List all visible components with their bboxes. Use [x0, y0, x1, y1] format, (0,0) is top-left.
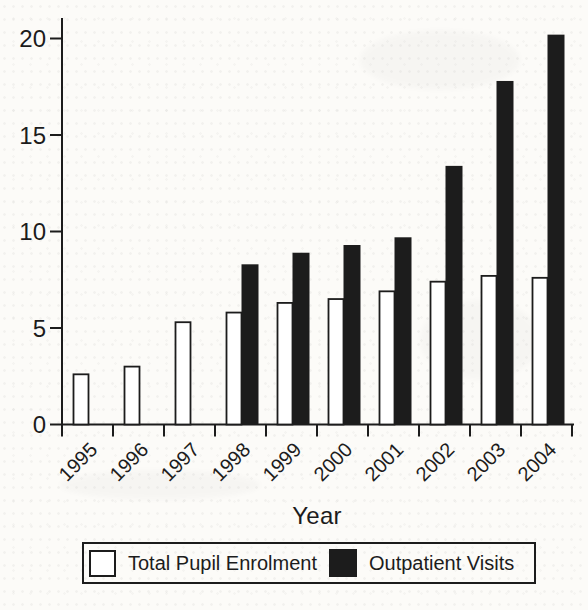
legend-label-total-pupil-enrolment: Total Pupil Enrolment	[128, 552, 317, 575]
bar-outpatient-visits-1998	[242, 264, 259, 424]
x-tick-label: 2003	[462, 438, 509, 485]
bar-total-pupil-enrolment-2004	[533, 278, 548, 425]
y-tick-label: 5	[33, 315, 46, 342]
bar-total-pupil-enrolment-1996	[125, 367, 140, 425]
bar-outpatient-visits-2004	[548, 35, 565, 425]
bar-outpatient-visits-2003	[497, 81, 514, 425]
x-tick-label: 1997	[156, 438, 203, 485]
bar-total-pupil-enrolment-1999	[278, 303, 293, 425]
bar-total-pupil-enrolment-2002	[431, 282, 446, 425]
bar-total-pupil-enrolment-2000	[329, 299, 344, 424]
x-tick-label: 2000	[309, 438, 356, 485]
bar-total-pupil-enrolment-1998	[227, 313, 242, 425]
x-tick-label: 1996	[105, 438, 152, 485]
x-tick-label: 1999	[258, 438, 305, 485]
bar-total-pupil-enrolment-1995	[74, 374, 89, 424]
chart-plot-area: 0510152019951996199719981999200020012002…	[0, 0, 588, 538]
bar-total-pupil-enrolment-1997	[176, 322, 191, 424]
legend-swatch-total-pupil-enrolment	[89, 550, 116, 577]
bar-outpatient-visits-2001	[395, 237, 412, 424]
bar-outpatient-visits-1999	[293, 253, 310, 425]
x-tick-label: 2002	[411, 438, 458, 485]
x-tick-label: 2001	[360, 438, 407, 485]
x-axis-title: Year	[62, 502, 572, 530]
y-tick-label: 10	[19, 218, 46, 245]
x-tick-label: 1998	[207, 438, 254, 485]
y-tick-label: 0	[33, 411, 46, 438]
scanned-bar-chart-figure: 0510152019951996199719981999200020012002…	[0, 0, 588, 610]
bar-outpatient-visits-2002	[446, 166, 463, 425]
legend-label-outpatient-visits: Outpatient Visits	[369, 552, 514, 575]
bar-outpatient-visits-2000	[344, 245, 361, 424]
y-tick-label: 20	[19, 25, 46, 52]
x-tick-label: 2004	[513, 438, 560, 485]
bar-total-pupil-enrolment-2003	[482, 276, 497, 425]
legend-swatch-outpatient-visits	[329, 549, 357, 577]
y-tick-label: 15	[19, 122, 46, 149]
x-tick-label: 1995	[54, 438, 101, 485]
chart-legend: Total Pupil Enrolment Outpatient Visits	[82, 542, 536, 584]
bar-total-pupil-enrolment-2001	[380, 291, 395, 424]
